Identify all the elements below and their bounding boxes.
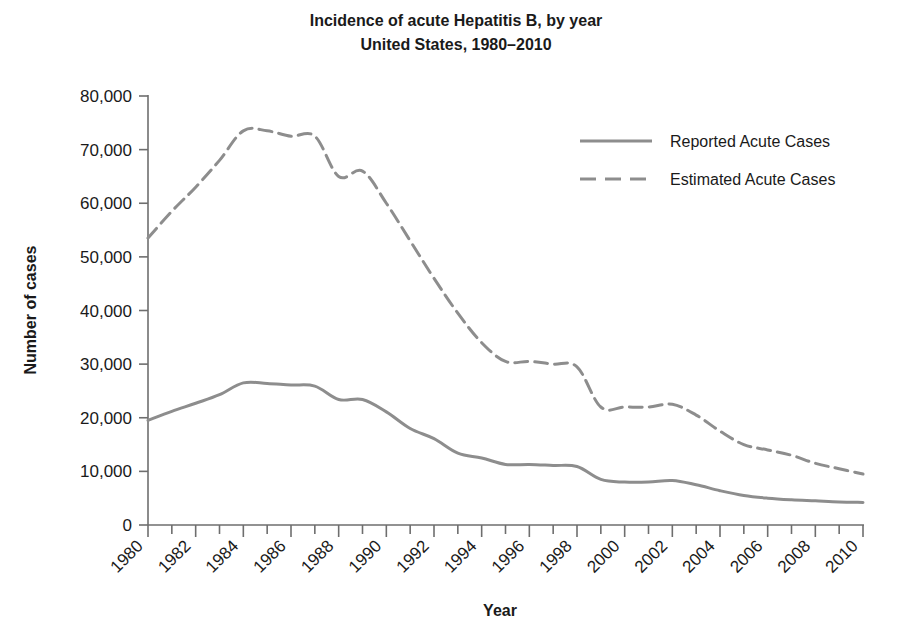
series-line-reported <box>148 382 863 502</box>
x-axis-tick-label: 1986 <box>250 536 290 576</box>
legend-label-estimated: Estimated Acute Cases <box>670 171 835 188</box>
x-axis-tick-label: 1984 <box>202 536 242 576</box>
x-axis-tick-label: 1994 <box>440 536 480 576</box>
x-axis-tick-label: 2004 <box>679 536 719 576</box>
x-axis-title: Year <box>483 602 517 619</box>
y-axis-tick-label: 40,000 <box>80 302 132 321</box>
y-axis-tick-label: 50,000 <box>80 248 132 267</box>
chart-legend: Reported Acute CasesEstimated Acute Case… <box>580 133 835 188</box>
hepatitis-b-incidence-line-chart: Incidence of acute Hepatitis B, by year … <box>0 0 912 640</box>
x-axis-tick-label: 1990 <box>345 536 385 576</box>
x-axis-tick-label: 1980 <box>107 536 147 576</box>
chart-title: Incidence of acute Hepatitis B, by year <box>310 12 603 29</box>
legend-label-reported: Reported Acute Cases <box>670 133 830 150</box>
x-axis: 1980198219841986198819901992199419961998… <box>107 525 864 577</box>
x-axis-tick-label: 2006 <box>726 536 766 576</box>
y-axis-tick-label: 80,000 <box>80 87 132 106</box>
y-axis-tick-label: 60,000 <box>80 194 132 213</box>
y-axis-tick-label: 70,000 <box>80 141 132 160</box>
x-axis-tick-label: 1998 <box>536 536 576 576</box>
y-axis: 80,00070,00060,00050,00040,00030,00020,0… <box>80 87 148 535</box>
chart-container: Incidence of acute Hepatitis B, by year … <box>0 0 912 640</box>
x-axis-tick-label: 1988 <box>297 536 337 576</box>
y-axis-title: Number of cases <box>22 245 39 374</box>
y-axis-tick-label: 0 <box>123 516 132 535</box>
chart-subtitle: United States, 1980–2010 <box>360 36 551 53</box>
x-axis-tick-label: 2000 <box>583 536 623 576</box>
x-axis-tick-label: 2008 <box>774 536 814 576</box>
x-axis-tick-label: 2010 <box>822 536 862 576</box>
x-axis-tick-label: 1982 <box>154 536 194 576</box>
y-axis-tick-label: 20,000 <box>80 409 132 428</box>
x-axis-tick-label: 2002 <box>631 536 671 576</box>
x-axis-tick-label: 1992 <box>393 536 433 576</box>
y-axis-tick-label: 10,000 <box>80 462 132 481</box>
y-axis-tick-label: 30,000 <box>80 355 132 374</box>
x-axis-tick-label: 1996 <box>488 536 528 576</box>
